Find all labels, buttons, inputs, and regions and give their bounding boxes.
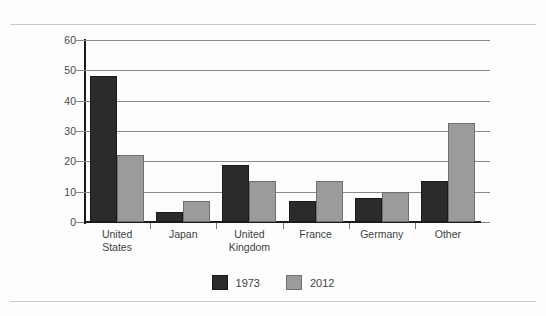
tick-left-50 xyxy=(76,70,84,71)
tick-left-10 xyxy=(76,192,84,193)
y-tick-label-60: 60 xyxy=(42,35,76,45)
y-tick-label-10: 10 xyxy=(42,187,76,197)
bar-group xyxy=(222,40,276,222)
tick-left-60 xyxy=(76,40,84,41)
tick-right-50 xyxy=(481,70,490,71)
x-label-line: Other xyxy=(403,228,493,241)
bar-group xyxy=(355,40,409,222)
legend-swatch-1973 xyxy=(212,275,228,290)
bar-other-1973 xyxy=(421,181,448,222)
tick-right-60 xyxy=(481,40,490,41)
bar-group xyxy=(90,40,144,222)
tick-left-0 xyxy=(76,222,84,223)
y-axis-tick-labels: 0102030405060 xyxy=(34,40,76,222)
bar-japan-1973 xyxy=(156,212,183,222)
y-tick-label-20: 20 xyxy=(42,156,76,166)
bar-germany-1973 xyxy=(355,198,382,222)
x-label-other: Other xyxy=(403,228,493,241)
bar-chart-figure: 0102030405060 UnitedStatesJapanUnitedKin… xyxy=(0,0,546,316)
tick-right-0 xyxy=(481,222,490,223)
tick-right-10 xyxy=(481,192,490,193)
bar-france-1973 xyxy=(289,201,316,222)
y-tick-label-40: 40 xyxy=(42,96,76,106)
bar-japan-2012 xyxy=(183,201,210,222)
x-label-line: States xyxy=(72,241,162,254)
bar-group xyxy=(421,40,475,222)
tick-right-20 xyxy=(481,161,490,162)
bar-united-states-2012 xyxy=(117,155,144,222)
bar-united-kingdom-1973 xyxy=(222,165,249,222)
tick-right-40 xyxy=(481,101,490,102)
y-tick-label-30: 30 xyxy=(42,126,76,136)
legend-swatch-2012 xyxy=(286,275,302,290)
bar-group xyxy=(289,40,343,222)
tick-left-40 xyxy=(76,101,84,102)
chart-legend: 19732012 xyxy=(0,275,546,290)
bar-united-kingdom-2012 xyxy=(249,181,276,222)
y-tick-label-0: 0 xyxy=(42,217,76,227)
legend-label-2012: 2012 xyxy=(310,277,334,289)
y-tick-label-50: 50 xyxy=(42,65,76,75)
tick-right-30 xyxy=(481,131,490,132)
bar-group xyxy=(156,40,210,222)
tick-left-20 xyxy=(76,161,84,162)
x-axis-category-labels: UnitedStatesJapanUnitedKingdomFranceGerm… xyxy=(84,228,481,266)
x-label-line: Kingdom xyxy=(204,241,294,254)
legend-label-1973: 1973 xyxy=(236,277,260,289)
bar-united-states-1973 xyxy=(90,76,117,223)
plot-area xyxy=(84,40,481,222)
bar-france-2012 xyxy=(316,181,343,222)
tick-left-30 xyxy=(76,131,84,132)
bar-germany-2012 xyxy=(382,192,409,222)
legend-item-1973: 1973 xyxy=(212,275,260,290)
legend-item-2012: 2012 xyxy=(286,275,334,290)
bar-other-2012 xyxy=(448,123,475,222)
